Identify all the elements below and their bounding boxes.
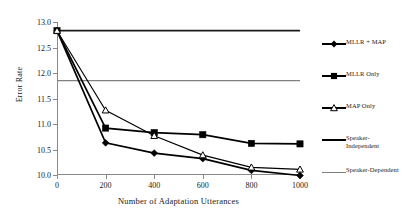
y-tick-label: 10.5: [37, 145, 51, 154]
marker-square: [248, 140, 254, 146]
legend-item[interactable]: MLLR + MAP: [322, 38, 386, 49]
legend-diamond-icon: [331, 41, 338, 48]
y-tick-label: 12.5: [37, 43, 51, 52]
legend-glyph: [322, 39, 346, 49]
x-tick-mark: [203, 175, 204, 179]
x-axis-title: Number of Adaptation Utterances: [57, 196, 300, 206]
legend-triangle-icon: [331, 105, 338, 111]
legend-label: MAP Only: [346, 102, 375, 110]
marker-square: [297, 141, 303, 147]
marker-square: [200, 132, 206, 138]
legend-item[interactable]: MLLR Only: [322, 70, 380, 81]
y-tick-label: 10.0: [37, 171, 51, 180]
x-tick-label: 400: [148, 181, 160, 190]
series-canvas: [57, 22, 300, 175]
x-tick-label: 1000: [292, 181, 308, 190]
x-tick-label: 200: [100, 181, 112, 190]
marker-triangle: [199, 152, 206, 158]
x-tick-label: 0: [55, 181, 59, 190]
legend-item[interactable]: Speaker-Dependent: [322, 166, 399, 177]
y-tick-label: 13.0: [37, 18, 51, 27]
legend-square-icon: [331, 73, 337, 79]
legend-label: MLLR Only: [346, 70, 380, 78]
marker-diamond: [102, 139, 109, 146]
marker-triangle: [102, 107, 109, 113]
legend-marker-filled-diamond-icon: [322, 39, 346, 49]
x-tick-mark: [57, 175, 58, 179]
y-tick-label: 11.0: [37, 120, 51, 129]
legend-label: MLLR + MAP: [346, 38, 386, 46]
plot-area: 10.010.511.011.512.012.513.0 02004006008…: [57, 22, 300, 175]
chart-figure: Error Rate 10.010.511.011.512.012.513.0 …: [0, 0, 419, 221]
x-tick-label: 600: [197, 181, 209, 190]
legend-marker-line-dark-icon: [322, 135, 346, 145]
legend-label: Speaker-Dependent: [346, 166, 399, 174]
x-tick-mark: [154, 175, 155, 179]
marker-diamond: [151, 150, 158, 157]
legend-marker-open-triangle-icon: [322, 103, 346, 113]
y-tick-label: 12.0: [37, 69, 51, 78]
x-tick-mark: [106, 175, 107, 179]
series-line-mllr-only: [57, 31, 300, 144]
marker-diamond: [297, 172, 304, 179]
legend-marker-filled-square-icon: [322, 71, 346, 81]
legend-glyph: [322, 103, 346, 113]
y-axis-title: Error Rate: [15, 40, 24, 130]
marker-square: [103, 125, 109, 131]
legend-item[interactable]: Speaker- Independent: [322, 134, 379, 150]
x-tick-label: 800: [245, 181, 257, 190]
legend-glyph: [322, 71, 346, 81]
y-tick-label: 11.5: [37, 94, 51, 103]
x-tick-mark: [251, 175, 252, 179]
legend-label: Speaker- Independent: [346, 134, 379, 150]
series-line-map-only: [57, 31, 300, 170]
legend-marker-line-gray-icon: [322, 167, 346, 177]
legend-item[interactable]: MAP Only: [322, 102, 375, 113]
